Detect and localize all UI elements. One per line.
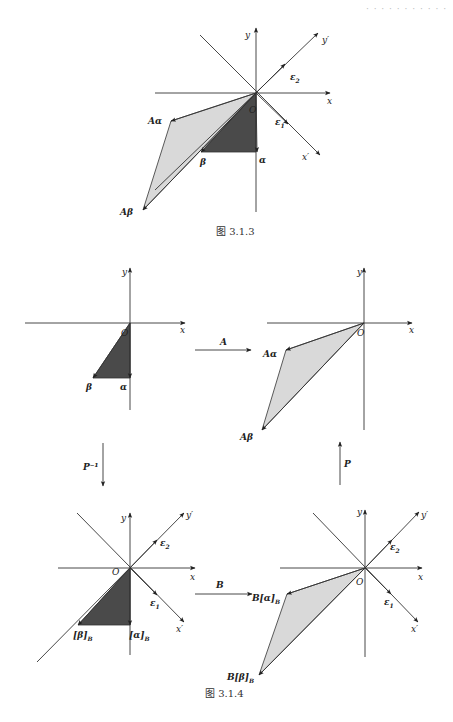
vector [259, 568, 365, 675]
vector-label: Aβ [119, 207, 133, 217]
y-axis-label: y [244, 30, 251, 40]
y-axis-label: y [356, 507, 363, 517]
vector [262, 323, 364, 430]
figure-3-1-3: xyx′y′ε2ε1αβAαAβO [119, 28, 332, 217]
vector-label: α [120, 382, 127, 392]
figure-caption-3-1-3: 图 3.1.3 [216, 226, 255, 237]
map-arrow-B: B [195, 580, 252, 594]
basis-vector-ε2 [365, 540, 392, 568]
basis-label-ε2: ε2 [160, 538, 170, 550]
y-prime-axis [155, 33, 318, 190]
basis-vector-ε1 [365, 568, 391, 594]
vector-label: α [259, 155, 266, 165]
y-prime-axis-label: y′ [420, 510, 428, 520]
vector-label: Aα [262, 349, 277, 359]
origin-label: O [112, 567, 120, 577]
vector-label: [β]B [73, 630, 93, 642]
panel-basis-B: xyx′y′ε2ε1[α]B[β]BO [37, 510, 195, 662]
figure-3-1-4: xyαβOxyAαAβOxyx′y′ε2ε1[α]B[β]BOxyx′y′ε2ε… [25, 267, 428, 684]
y-axis-label: y [120, 513, 127, 523]
x-axis-label: x [418, 572, 423, 582]
diagram-canvas: xyx′y′ε2ε1αβAαAβO xyαβOxyAαAβOxyx′y′ε2ε1… [0, 0, 453, 722]
map-label: P [343, 459, 351, 469]
map-arrow-P⁻¹: P⁻¹ [82, 443, 103, 486]
y-prime-axis [37, 513, 184, 662]
x-axis-label: x [409, 325, 414, 335]
figure-caption-3-1-4: 图 3.1.4 [205, 688, 244, 699]
y-prime-axis-label: y′ [321, 35, 329, 45]
basis-label-ε2: ε2 [290, 72, 300, 84]
y-axis-label: y [121, 267, 128, 277]
map-arrow-A: A [195, 337, 251, 350]
panel-B-image: xyx′y′ε2ε1B[α]BB[β]BO [226, 507, 428, 684]
vector-label: Aβ [239, 432, 253, 442]
basis-vector-ε2 [130, 540, 157, 568]
basis-vector-ε2 [256, 64, 285, 93]
map-label: B [215, 580, 224, 590]
x-axis-label: x [190, 572, 195, 582]
x-axis-label: x [180, 325, 185, 335]
origin-label: O [249, 105, 257, 115]
y-axis-label: y [356, 267, 363, 277]
x-axis-label: x [327, 96, 332, 106]
vector-label: β [199, 157, 206, 167]
vector-label: Aα [147, 116, 162, 126]
panel-original: xyαβO [25, 267, 185, 410]
x-prime-axis-label: x′ [411, 624, 418, 634]
y-prime-axis-label: y′ [185, 510, 193, 520]
basis-label-ε1: ε1 [150, 598, 160, 610]
origin-label: O [121, 328, 129, 338]
basis-label-ε1: ε1 [384, 597, 394, 609]
x-prime-axis-label: x′ [302, 152, 309, 162]
basis-vector-ε1 [130, 568, 157, 595]
origin-label: O [356, 577, 364, 587]
basis-vector-ε1 [256, 93, 288, 124]
origin-label: O [357, 328, 365, 338]
map-label: A [219, 337, 227, 347]
map-arrow-P: P [340, 442, 351, 485]
vector-label: [α]B [129, 630, 150, 642]
vector-label: B[α]B [251, 593, 280, 605]
map-label: P⁻¹ [82, 462, 99, 472]
x-prime-axis-label: x′ [176, 624, 183, 634]
basis-label-ε2: ε2 [390, 542, 400, 554]
vector-label: B[β]B [226, 672, 254, 684]
vector-label: β [85, 382, 92, 392]
panel-transformed: xyAαAβO [239, 267, 414, 442]
